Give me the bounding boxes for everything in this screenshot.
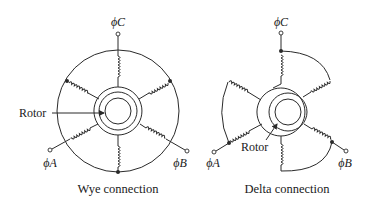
wye-junction-upper-left (65, 79, 69, 83)
wye-terminal-a (48, 148, 52, 152)
delta-rotor (275, 99, 301, 125)
delta-caption: Delta connection (244, 182, 330, 196)
delta-terminal-a (212, 150, 216, 154)
delta-label-rotor: Rotor (241, 140, 268, 154)
wye-terminal-b (185, 149, 189, 153)
delta-terminal-c (279, 31, 283, 35)
wye-label-phase-b: ϕB (173, 156, 187, 170)
wye-rotor (105, 98, 131, 124)
delta-diagram: ϕC ϕA ϕB Rotor Delta connection (206, 15, 352, 196)
wye-stator-ring (94, 87, 142, 135)
delta-label-phase-a: ϕA (206, 156, 220, 170)
wye-label-rotor: Rotor (19, 106, 46, 120)
wye-diagram: ϕC ϕA ϕB Rotor Wye connection (19, 15, 189, 196)
delta-label-phase-c: ϕC (274, 15, 289, 29)
delta-label-phase-b: ϕB (338, 156, 352, 170)
motor-connection-diagram: ϕC ϕA ϕB Rotor Wye connection (0, 0, 372, 208)
wye-label-phase-a: ϕA (43, 156, 57, 170)
delta-terminal-b (344, 149, 348, 153)
wye-terminal-c (116, 32, 120, 36)
wye-junction-upper-right (168, 79, 172, 83)
wye-caption: Wye connection (78, 182, 160, 196)
wye-label-phase-c: ϕC (111, 15, 126, 29)
wye-junction-bottom (116, 170, 120, 174)
